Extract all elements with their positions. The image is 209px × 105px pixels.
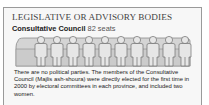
body-name: Consultative Council	[12, 24, 86, 33]
legislative-bodies-panel: LEGISLATIVE OR ADVISORY BODIES Consultat…	[3, 7, 202, 105]
body-heading: Consultative Council 82 seats	[12, 24, 116, 33]
description-text: There are no political parties. The memb…	[14, 69, 199, 98]
seat-illustration	[12, 35, 195, 67]
council-bench-icon	[12, 35, 195, 67]
section-title: LEGISLATIVE OR ADVISORY BODIES	[12, 12, 172, 22]
seat-count: 82 seats	[88, 24, 116, 33]
